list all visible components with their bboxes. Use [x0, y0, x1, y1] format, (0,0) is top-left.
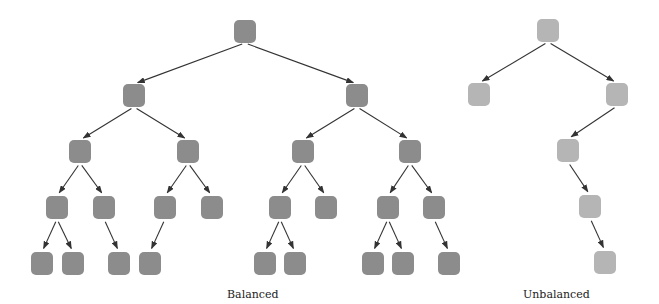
edge-arrow: [190, 165, 210, 192]
balanced-tree-node: [139, 252, 161, 275]
balanced-tree-node: [423, 196, 445, 219]
unbalanced-tree-node: [594, 251, 616, 274]
edge-arrow: [281, 222, 293, 249]
unbalanced-tree-node: [579, 195, 601, 218]
balanced-tree-node: [69, 140, 91, 163]
balanced-tree-node: [438, 252, 460, 275]
balanced-tree-node: [346, 84, 368, 107]
balanced-tree-node: [284, 252, 306, 275]
balanced-tree-node: [93, 196, 115, 219]
edge-arrow: [305, 165, 324, 192]
edge-arrow: [44, 222, 56, 249]
edge-arrow: [82, 165, 102, 192]
balanced-tree-node: [123, 84, 145, 107]
balanced-tree-node: [362, 252, 384, 275]
balanced-tree-node: [234, 20, 256, 43]
edge-arrow: [412, 165, 432, 192]
unbalanced-tree-node: [606, 83, 628, 106]
edge-arrow: [83, 109, 131, 138]
balanced-tree-node: [399, 140, 421, 163]
balanced-tree-node: [269, 196, 291, 219]
balanced-tree-node: [254, 252, 276, 275]
balanced-tree-node: [177, 140, 199, 163]
edge-arrow: [58, 222, 71, 249]
balanced-tree-node: [201, 196, 223, 219]
edge-arrow: [570, 164, 588, 191]
edge-arrow: [360, 109, 407, 138]
balanced-tree-node: [392, 252, 414, 275]
edge-arrow: [375, 222, 387, 249]
unbalanced-tree-node: [468, 83, 490, 106]
balanced-tree-node: [31, 252, 53, 275]
balanced-tree-node: [292, 140, 314, 163]
edge-arrow: [105, 222, 117, 249]
balanced-tree-node: [46, 196, 68, 219]
tree-diagram: Balanced Unbalanced: [0, 0, 659, 304]
unbalanced-tree-node: [557, 139, 579, 162]
edge-arrow: [59, 165, 78, 192]
edge-arrow: [551, 44, 614, 81]
balanced-tree-node: [315, 196, 337, 219]
edge-arrow: [591, 221, 603, 248]
caption-unbalanced: Unbalanced: [523, 288, 590, 301]
edge-arrow: [152, 222, 164, 249]
edge-arrow: [138, 44, 242, 83]
edge-arrow: [137, 109, 185, 138]
unbalanced-tree-node: [537, 19, 559, 42]
edge-arrow: [389, 222, 401, 249]
edge-arrow: [390, 165, 408, 192]
edge-arrow: [248, 44, 353, 83]
caption-balanced: Balanced: [227, 288, 279, 301]
edge-arrow: [571, 108, 614, 137]
edge-arrow: [267, 222, 279, 249]
edge-arrow: [282, 165, 301, 192]
balanced-tree-node: [108, 252, 130, 275]
balanced-tree-node: [62, 252, 84, 275]
edge-arrow: [167, 165, 186, 192]
edge-arrow: [306, 109, 354, 138]
balanced-tree-node: [154, 196, 176, 219]
edge-arrow: [435, 222, 447, 249]
edge-arrow: [482, 44, 545, 81]
balanced-tree-node: [377, 196, 399, 219]
